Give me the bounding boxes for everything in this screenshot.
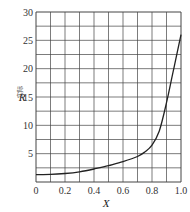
chart: 51015202530 00.20.40.60.81.0 X R 实际 [0, 0, 190, 212]
x-tick-label: 0.4 [88, 185, 101, 196]
x-tick-label: 1.0 [175, 185, 188, 196]
y-tick-label: 20 [23, 63, 33, 74]
grid [36, 12, 181, 182]
x-axis-ticks: 00.20.40.60.81.0 [34, 185, 188, 196]
x-tick-label: 0.2 [59, 185, 72, 196]
y-tick-label: 30 [23, 7, 33, 18]
y-tick-label: 10 [23, 120, 33, 131]
svg-text:实际: 实际 [16, 86, 24, 98]
x-axis-label: X [102, 197, 111, 209]
y-axis-label: R 实际 [16, 86, 26, 103]
y-tick-label: 25 [23, 35, 33, 46]
x-tick-label: 0 [34, 185, 39, 196]
y-tick-label: 5 [28, 148, 33, 159]
x-tick-label: 0.6 [117, 185, 130, 196]
x-tick-label: 0.8 [146, 185, 159, 196]
y-axis-ticks: 51015202530 [23, 7, 33, 160]
